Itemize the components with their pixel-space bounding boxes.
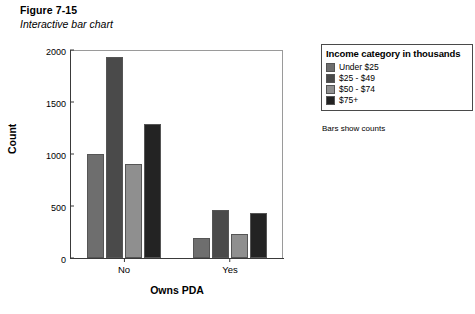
legend-item[interactable]: $75+ <box>326 95 468 105</box>
y-tick-label: 1500 <box>46 99 70 109</box>
legend-swatch <box>326 96 335 105</box>
bar[interactable] <box>250 213 267 258</box>
y-tick: 1500 <box>46 93 70 111</box>
bar[interactable] <box>193 238 210 258</box>
y-tick-label: 1000 <box>46 151 70 161</box>
legend-swatch <box>326 74 335 83</box>
x-tick-label: Yes <box>222 264 238 275</box>
legend[interactable]: Income category in thousands Under $25$2… <box>321 44 473 111</box>
bars-layer <box>71 50 283 258</box>
x-axis-title: Owns PDA <box>71 284 283 296</box>
legend-items: Under $25$25 - $49$50 - $74$75+ <box>326 62 468 105</box>
legend-label: Under $25 <box>339 62 379 72</box>
legend-item[interactable]: Under $25 <box>326 62 468 72</box>
bar[interactable] <box>212 210 229 258</box>
legend-item[interactable]: $25 - $49 <box>326 73 468 83</box>
bar[interactable] <box>125 164 142 258</box>
legend-swatch <box>326 85 335 94</box>
figure-title: Interactive bar chart <box>20 18 113 31</box>
bar[interactable] <box>144 124 161 258</box>
legend-label: $75+ <box>339 95 358 105</box>
y-tick-label: 2000 <box>46 47 70 57</box>
y-tick: 0 <box>61 249 70 267</box>
x-tick-label: No <box>118 264 130 275</box>
x-axis-ticks: NoYes <box>71 258 283 278</box>
y-tick-label: 0 <box>61 255 70 265</box>
y-tick-label: 500 <box>51 203 70 213</box>
y-tick: 2000 <box>46 41 70 59</box>
legend-title: Income category in thousands <box>326 48 468 59</box>
legend-label: $25 - $49 <box>339 73 375 83</box>
x-tick: No <box>118 258 130 275</box>
y-tick: 1000 <box>46 145 70 163</box>
legend-label: $50 - $74 <box>339 84 375 94</box>
figure-number: Figure 7-15 <box>20 4 113 17</box>
legend-footnote: Bars show counts <box>322 124 385 133</box>
bar[interactable] <box>106 57 123 258</box>
bar-chart[interactable]: 0500100015002000 Count NoYes Owns PDA <box>0 38 310 314</box>
legend-item[interactable]: $50 - $74 <box>326 84 468 94</box>
figure-caption: Figure 7-15 Interactive bar chart <box>20 4 113 31</box>
x-tick-mark <box>124 258 125 262</box>
bar[interactable] <box>231 234 248 258</box>
legend-swatch <box>326 63 335 72</box>
y-tick: 500 <box>51 197 70 215</box>
x-tick-mark <box>230 258 231 262</box>
bar[interactable] <box>87 154 104 258</box>
x-tick: Yes <box>222 258 238 275</box>
y-axis-title: Count <box>6 124 18 154</box>
